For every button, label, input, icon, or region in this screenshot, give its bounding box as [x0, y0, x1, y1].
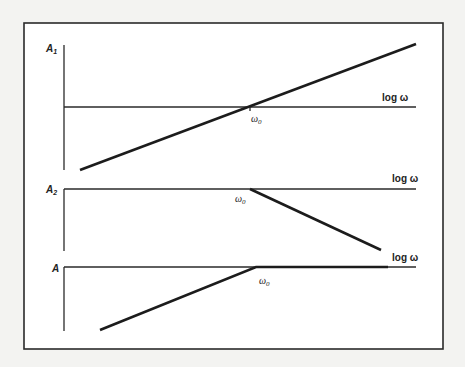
- a2-xlabel: log ω: [392, 173, 419, 184]
- a-ylabel: A: [51, 263, 59, 274]
- a1-xlabel: log ω: [382, 92, 409, 103]
- a-xlabel: log ω: [392, 252, 419, 263]
- figure-frame: [24, 23, 443, 349]
- bode-asymptote-figure: A1 log ω ω0 A2 log ω ω0 A log ω ω0: [0, 0, 465, 367]
